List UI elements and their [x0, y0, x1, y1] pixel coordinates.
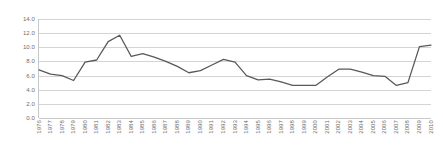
x-tick-label: 2006 — [381, 120, 387, 134]
x-tick-label: 1994 — [243, 120, 249, 134]
x-tick-label: 1993 — [232, 120, 238, 134]
x-tick-label: 1996 — [266, 120, 272, 134]
x-tick-label: 1990 — [197, 120, 203, 134]
x-tick-label: 1978 — [59, 120, 65, 134]
x-tick-label: 1985 — [139, 120, 145, 134]
x-tick-label: 1995 — [255, 120, 261, 134]
line-chart: 14.012.010.08.06.04.02.00.0 197619771978… — [0, 0, 443, 160]
x-axis: 1976197719781979198019811982198319841985… — [38, 120, 430, 160]
x-tick-label: 2004 — [358, 120, 364, 134]
y-tick-label: 14.0 — [23, 16, 35, 22]
x-tick-label: 1987 — [162, 120, 168, 134]
x-tick-label: 1984 — [128, 120, 134, 134]
x-tick-label: 1983 — [116, 120, 122, 134]
plot-area — [38, 19, 431, 118]
x-tick-label: 2001 — [324, 120, 330, 134]
x-tick-label: 2007 — [393, 120, 399, 134]
x-tick-label: 2008 — [404, 120, 410, 134]
x-tick-label: 1982 — [105, 120, 111, 134]
data-series-line — [39, 35, 431, 85]
x-tick-label: 1989 — [185, 120, 191, 134]
x-tick-label: 2005 — [370, 120, 376, 134]
x-tick-label: 1992 — [220, 120, 226, 134]
x-tick-label: 1976 — [36, 120, 42, 134]
x-tick-label: 2000 — [312, 120, 318, 134]
x-tick-label: 1981 — [93, 120, 99, 134]
x-tick-label: 2002 — [335, 120, 341, 134]
y-tick-label: 12.0 — [23, 30, 35, 36]
series-line-chart — [39, 19, 431, 118]
x-tick-label: 2009 — [416, 120, 422, 134]
x-tick-label: 1988 — [174, 120, 180, 134]
x-tick-label: 1980 — [82, 120, 88, 134]
x-tick-label: 1997 — [278, 120, 284, 134]
x-tick-label: 1998 — [289, 120, 295, 134]
y-tick-label: 8.0 — [26, 58, 35, 64]
x-tick-label: 1977 — [47, 120, 53, 134]
x-tick-label: 1986 — [151, 120, 157, 134]
y-tick-label: 2.0 — [26, 101, 35, 107]
y-tick-label: 6.0 — [26, 73, 35, 79]
x-tick-label: 1991 — [208, 120, 214, 134]
x-tick-label: 1979 — [70, 120, 76, 134]
x-tick-label: 2003 — [347, 120, 353, 134]
x-tick-label: 1999 — [301, 120, 307, 134]
y-axis: 14.012.010.08.06.04.02.00.0 — [0, 0, 38, 160]
x-tick-label: 2010 — [428, 120, 434, 134]
y-tick-label: 0.0 — [26, 115, 35, 121]
y-tick-label: 10.0 — [23, 44, 35, 50]
y-tick-label: 4.0 — [26, 87, 35, 93]
